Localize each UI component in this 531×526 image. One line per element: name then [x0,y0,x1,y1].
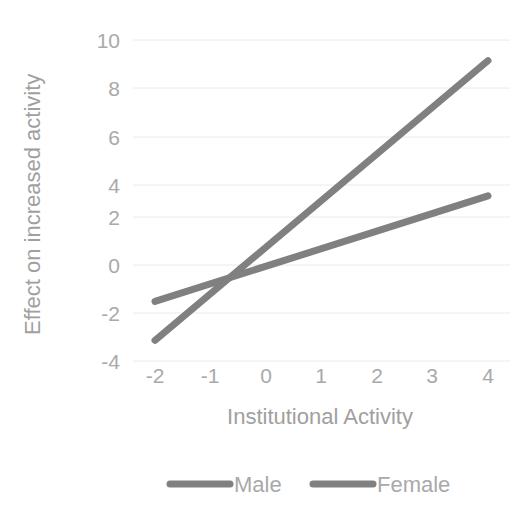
y-tick-label: 2 [108,206,120,229]
y-tick-label: 10 [97,29,120,52]
y-tick-label: 6 [108,126,120,149]
chart-canvas: Effect on increased activity 10 8 6 4 2 … [0,0,531,526]
legend-label-female: Female [377,472,450,497]
x-tick-label: -1 [201,364,220,387]
y-axis-title: Effect on increased activity [20,74,45,335]
y-tick-label: 4 [108,174,120,197]
x-tick-label: 3 [426,364,438,387]
y-tick-label: -2 [101,302,120,325]
legend-label-male: Male [234,472,282,497]
x-tick-label: 1 [315,364,327,387]
y-tick-label: 0 [108,254,120,277]
x-tick-label: 0 [260,364,272,387]
line-chart: Effect on increased activity 10 8 6 4 2 … [0,0,531,526]
x-tick-label: 4 [482,364,494,387]
x-tick-label: -2 [146,364,165,387]
y-tick-label: -4 [101,350,120,373]
y-tick-label: 8 [108,77,120,100]
x-tick-label: 2 [371,364,383,387]
x-axis-title: Institutional Activity [227,404,413,429]
